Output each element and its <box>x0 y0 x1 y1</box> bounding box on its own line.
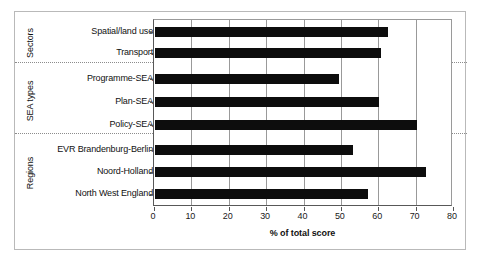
bar <box>155 167 426 177</box>
category-label: North West England <box>13 188 153 198</box>
bar <box>155 145 353 155</box>
x-tick-label: 70 <box>400 211 430 221</box>
y-tick-mark <box>150 194 154 195</box>
x-tick-label: 0 <box>138 211 168 221</box>
bar <box>155 189 368 199</box>
bar <box>155 74 339 84</box>
x-tick-label: 80 <box>437 211 467 221</box>
x-tick-label: 10 <box>175 211 205 221</box>
y-tick-mark <box>150 172 154 173</box>
y-tick-mark <box>150 79 154 80</box>
bar <box>155 97 379 107</box>
category-label: Plan-SEA <box>13 96 153 106</box>
plot-area <box>153 19 452 206</box>
x-axis-title: % of total score <box>153 228 452 238</box>
x-tick-label: 60 <box>362 211 392 221</box>
y-tick-mark <box>150 32 154 33</box>
category-label: Policy-SEA <box>13 119 153 129</box>
category-label: Noord-Holland <box>13 166 153 176</box>
y-tick-mark <box>150 150 154 151</box>
y-tick-mark <box>150 125 154 126</box>
bar <box>155 27 388 37</box>
category-label: Transport <box>13 47 153 57</box>
bar <box>155 48 381 58</box>
x-tick-label: 30 <box>250 211 280 221</box>
y-tick-mark <box>150 53 154 54</box>
x-tick-label: 20 <box>213 211 243 221</box>
y-tick-mark <box>150 102 154 103</box>
category-label: Spatial/land use <box>13 26 153 36</box>
chart-figure: Sectors SEA types Regions Spatial/land u… <box>0 0 484 263</box>
category-label: Programme-SEA <box>13 73 153 83</box>
category-axis-labels: Spatial/land use Transport Programme-SEA… <box>5 0 153 263</box>
bar <box>155 120 417 130</box>
gridline <box>416 20 417 205</box>
x-tick-label: 50 <box>325 211 355 221</box>
x-tick-label: 40 <box>288 211 318 221</box>
category-label: EVR Brandenburg-Berlin <box>13 144 153 154</box>
